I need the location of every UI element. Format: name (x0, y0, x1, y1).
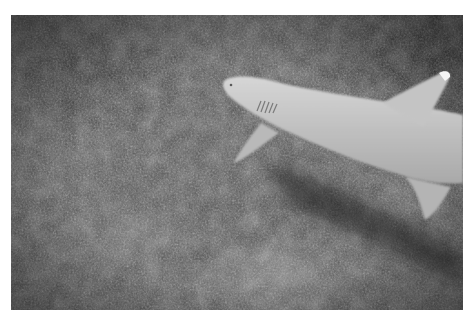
shark-eye (230, 84, 233, 87)
shark (11, 15, 463, 310)
pelvic-fin (406, 177, 451, 220)
pectoral-fin (233, 123, 279, 163)
underwater-photo (11, 15, 463, 310)
shark-shadow (273, 165, 463, 285)
